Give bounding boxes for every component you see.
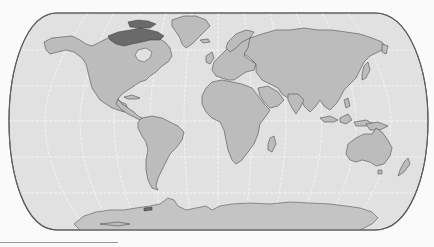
divider-line [0,242,118,243]
land-tasmania [378,170,382,174]
antarctic-ice-shelf [144,207,152,211]
world-map-svg [0,0,434,247]
world-map [0,0,434,247]
